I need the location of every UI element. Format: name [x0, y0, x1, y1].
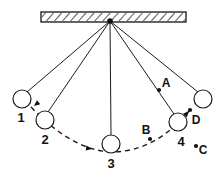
marker-label-A: A — [162, 76, 171, 90]
marker-label-C: C — [199, 143, 208, 157]
pivot-point — [107, 18, 113, 24]
bob-label-3: 3 — [107, 156, 114, 171]
bob-label-2: 2 — [41, 132, 48, 147]
bob-label-4: 4 — [177, 134, 185, 149]
pendulum-bob-3 — [102, 135, 120, 153]
marker-dot-B — [148, 137, 152, 141]
string-to-bob-4 — [110, 21, 174, 114]
marker-dot-A — [157, 88, 161, 92]
diagram-svg: 1234 ABCD — [0, 0, 217, 175]
pendulum-bob-5 — [194, 90, 212, 108]
ceiling-support — [41, 12, 186, 22]
ceiling-hatch-fill — [42, 13, 185, 21]
string-to-bob-5 — [110, 21, 198, 92]
string-to-bob-3 — [110, 21, 111, 135]
pendulum-bob-4 — [169, 113, 187, 131]
marker-label-B: B — [142, 123, 151, 137]
arrow-toward-bob-2 — [32, 100, 40, 108]
pendulum-bob-1 — [13, 90, 31, 108]
marker-dot-D — [188, 108, 192, 112]
pendulum-bob-2 — [36, 111, 54, 129]
pendulum-diagram-canvas: 1234 ABCD — [0, 0, 217, 175]
marker-label-D: D — [192, 113, 201, 127]
pendulum-bobs: 1234 — [13, 90, 212, 171]
bob-label-1: 1 — [17, 110, 24, 125]
marker-dot-C — [194, 144, 198, 148]
